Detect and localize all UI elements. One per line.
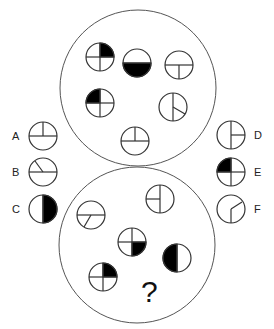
figure-b2-vertical-horizontal-left bbox=[146, 185, 174, 213]
top-group-circle bbox=[60, 10, 216, 166]
option-e-label[interactable]: E bbox=[254, 167, 261, 178]
option-a-figure[interactable] bbox=[29, 122, 57, 150]
figure-t2-half-fill-bottom bbox=[123, 49, 151, 77]
option-c-label[interactable]: C bbox=[12, 204, 20, 215]
option-b-label[interactable]: B bbox=[12, 167, 19, 178]
figure-t3-horizontal-vertical-down bbox=[165, 51, 193, 79]
option-e-figure[interactable] bbox=[217, 158, 245, 186]
figure-b1-horizontal-ray-lower-left bbox=[77, 201, 105, 229]
option-f-label[interactable]: F bbox=[254, 204, 261, 215]
option-d-figure[interactable] bbox=[217, 121, 245, 149]
figure-b5-quarters-fill-top-right bbox=[89, 263, 117, 291]
figure-t6-horizontal-vertical-up bbox=[121, 127, 149, 155]
option-f-figure[interactable] bbox=[217, 195, 245, 223]
option-c-figure[interactable] bbox=[29, 195, 57, 223]
figure-t1-quarters-fill-top-right bbox=[86, 43, 114, 71]
figure-t4-quarters-fill-top-left bbox=[86, 89, 114, 117]
figure-b4-half-fill-left bbox=[163, 244, 191, 272]
option-b-figure[interactable] bbox=[29, 158, 57, 186]
option-d-label[interactable]: D bbox=[254, 130, 262, 141]
figure-b3-quarters-fill-bottom-right bbox=[118, 228, 146, 256]
puzzle-canvas bbox=[0, 0, 274, 329]
figure-t5-vertical-ray-lower-right bbox=[159, 93, 187, 121]
option-a-label[interactable]: A bbox=[12, 131, 19, 142]
question-mark: ? bbox=[141, 277, 158, 307]
